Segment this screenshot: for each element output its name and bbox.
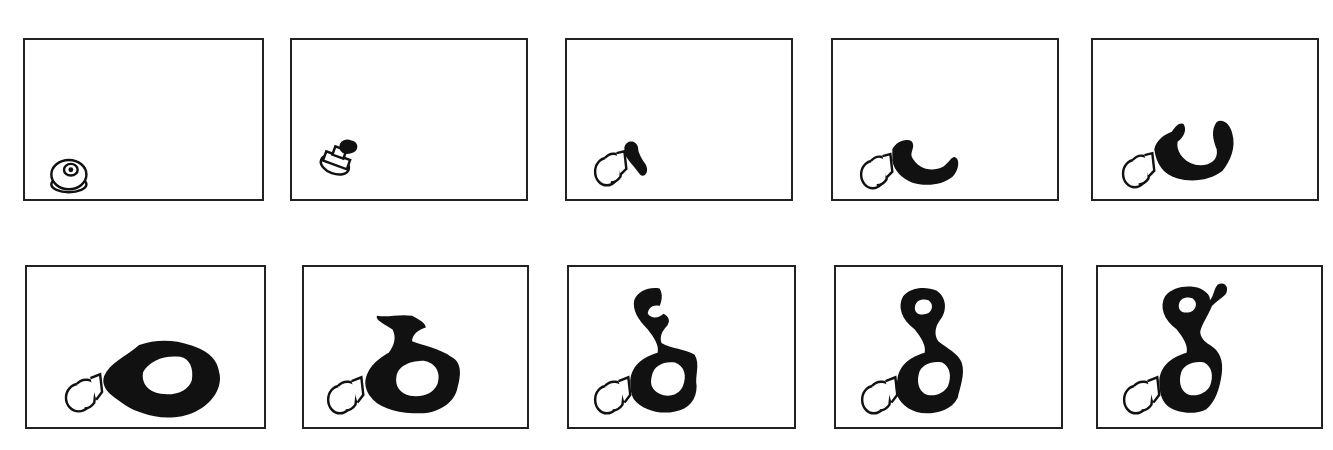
- panel-10: [1096, 265, 1323, 429]
- nozzle-icon: [861, 154, 892, 188]
- nozzle-icon: [862, 377, 897, 413]
- panel-6: [25, 265, 266, 429]
- paint-stroke: [896, 288, 963, 413]
- paint-stroke: [892, 140, 958, 185]
- nozzle-icon: [595, 377, 630, 413]
- panel-1: [23, 38, 264, 201]
- paint-stroke: [624, 141, 647, 175]
- paint-stroke: [1154, 121, 1233, 181]
- panel-7: [302, 265, 529, 429]
- nozzle-icon: [328, 377, 363, 413]
- paint-stroke: [1159, 284, 1227, 413]
- nozzle-icon: [1124, 377, 1159, 413]
- panel-4: [831, 38, 1059, 201]
- nozzle-icon: [25, 40, 262, 199]
- nozzle-icon: [1123, 153, 1154, 187]
- nozzle-icon: [66, 374, 102, 411]
- panel-2: [290, 38, 528, 201]
- paint-stroke: [630, 288, 697, 413]
- panel-5: [1091, 38, 1319, 201]
- panel-8: [567, 265, 796, 429]
- paint-stroke: [365, 315, 460, 413]
- panel-9: [834, 265, 1063, 429]
- nozzle-icon: [595, 151, 626, 185]
- panel-3: [565, 38, 793, 201]
- paint-stroke: [339, 140, 357, 154]
- paint-stroke: [103, 341, 220, 418]
